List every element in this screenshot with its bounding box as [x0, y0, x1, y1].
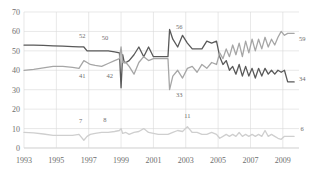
data-label: 8	[103, 116, 106, 123]
data-label: 6	[301, 125, 305, 132]
x-tick-label: 2009	[275, 156, 291, 165]
y-tick-label: 60	[12, 27, 20, 36]
data-label: 52	[79, 32, 86, 39]
x-tick-label: 1999	[113, 156, 129, 165]
x-tick-label: 1997	[81, 156, 97, 165]
x-tick-label: 2005	[210, 156, 226, 165]
y-tick-label: 10	[12, 125, 20, 134]
data-label: 11	[184, 112, 190, 119]
x-tick-label: 2003	[178, 156, 194, 165]
chart-container: 010203040506070 199319951997199920012003…	[0, 0, 315, 172]
data-value-labels: 525056344142335978116	[79, 23, 306, 133]
x-tick-label: 2007	[242, 156, 258, 165]
data-label: 59	[299, 35, 306, 42]
data-label: 34	[299, 75, 306, 82]
data-label: 33	[176, 91, 183, 98]
gridlines	[24, 12, 299, 148]
x-axis-tick-labels: 199319951997199920012003200520072009	[16, 156, 291, 165]
data-label: 42	[106, 72, 113, 79]
data-label: 7	[79, 117, 83, 124]
data-label: 56	[176, 23, 183, 30]
x-tick-label: 1995	[48, 156, 64, 165]
y-tick-label: 0	[16, 144, 20, 153]
y-tick-label: 50	[12, 47, 20, 56]
y-tick-label: 70	[12, 8, 20, 17]
x-tick-label: 2001	[145, 156, 161, 165]
data-label: 50	[102, 34, 109, 41]
y-tick-label: 20	[12, 105, 20, 114]
y-tick-label: 40	[12, 66, 20, 75]
series-lines	[24, 29, 294, 140]
line-series-mid	[24, 31, 294, 89]
data-label: 41	[79, 72, 86, 79]
y-tick-label: 30	[12, 86, 20, 95]
line-chart: 010203040506070 199319951997199920012003…	[0, 0, 315, 172]
y-axis-tick-labels: 010203040506070	[12, 8, 20, 153]
x-tick-label: 1993	[16, 156, 32, 165]
